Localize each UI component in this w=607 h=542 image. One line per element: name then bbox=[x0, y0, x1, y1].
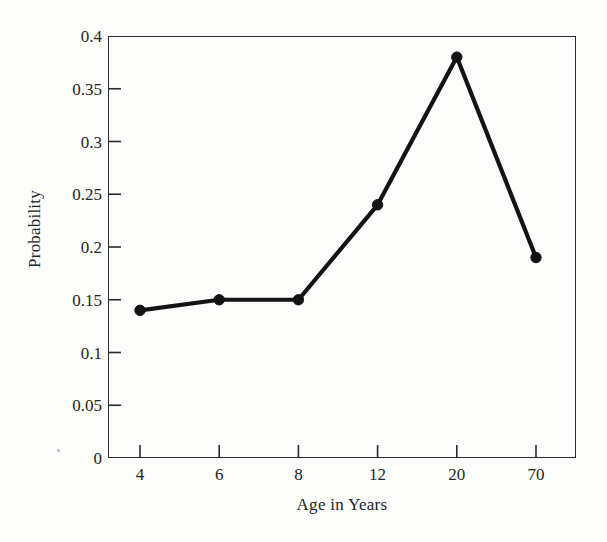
data-point-marker bbox=[452, 52, 462, 62]
data-point-marker bbox=[372, 200, 382, 210]
data-series-line bbox=[140, 57, 536, 310]
x-tick-label: 6 bbox=[189, 466, 249, 483]
x-tick-label: 12 bbox=[348, 466, 408, 483]
scan-artifact-speck bbox=[57, 449, 60, 452]
x-tick-label: 8 bbox=[268, 466, 328, 483]
plot-area bbox=[108, 36, 576, 458]
data-point-marker bbox=[214, 295, 224, 305]
data-point-marker bbox=[135, 305, 145, 315]
x-tick-label: 20 bbox=[427, 466, 487, 483]
data-point-marker bbox=[293, 295, 303, 305]
chart-figure: Probability 00.050.10.150.20.250.30.350.… bbox=[0, 0, 607, 542]
x-tick-label: 70 bbox=[506, 466, 566, 483]
data-point-marker bbox=[531, 252, 541, 262]
x-axis-tick-marks bbox=[140, 445, 536, 458]
y-axis-tick-marks bbox=[108, 89, 121, 406]
x-tick-label: 4 bbox=[110, 466, 170, 483]
x-axis-title: Age in Years bbox=[108, 495, 576, 515]
data-point-markers bbox=[135, 52, 541, 316]
